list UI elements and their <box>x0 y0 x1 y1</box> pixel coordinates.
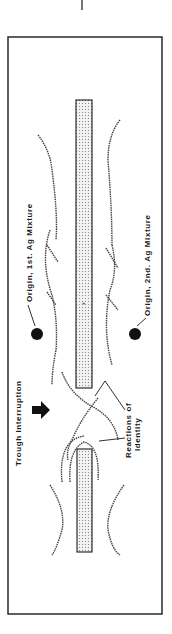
pointer-origin-first <box>28 305 35 326</box>
trough-mark: + <box>82 300 86 306</box>
label-trough-interruption: Trough Interruption <box>14 380 23 466</box>
upper-trough <box>76 100 92 388</box>
lower-trough <box>77 449 92 552</box>
label-reactions-line2: Identity <box>133 418 142 451</box>
well-first-antigen <box>31 328 43 340</box>
trough-interruption-arrow-icon <box>32 401 50 419</box>
pointer-origin-second <box>137 318 146 326</box>
immunodiffusion-diagram: + Origin, 1st. Ag Mixture Origin, 2nd. A… <box>0 0 172 634</box>
label-reactions-line1: Reactions of <box>124 403 133 458</box>
well-second-antigen <box>129 328 141 340</box>
label-origin-first: Origin, 1st. Ag Mixture <box>25 203 34 302</box>
label-origin-second: Origin, 2nd. Ag Mixture <box>143 214 152 316</box>
